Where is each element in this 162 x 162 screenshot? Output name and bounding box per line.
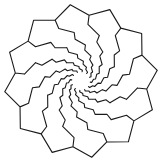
pentagon-edges xyxy=(5,5,158,158)
pentagon-rosette-figure xyxy=(0,0,162,162)
rosette-svg xyxy=(0,0,162,162)
